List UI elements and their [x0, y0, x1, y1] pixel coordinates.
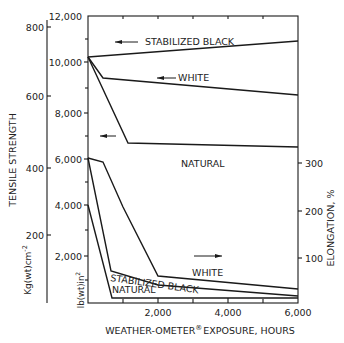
- elong-ticks: 300 200 100: [298, 158, 323, 264]
- tensile-natural-line: [88, 57, 298, 147]
- lb-unit-label: lb(wt)in2: [74, 272, 86, 308]
- elongation-axis-title: ELONGATION, %: [325, 190, 336, 267]
- x-tick-6000: 6,000: [284, 307, 311, 318]
- arrow-tensile-axis-icon: [100, 134, 116, 138]
- label-bottom-white: WHITE: [192, 267, 223, 278]
- lb-tick-12000: 12,000: [49, 11, 82, 22]
- svg-text:lb(wt)in2: lb(wt)in2: [74, 272, 86, 308]
- elong-tick-300: 300: [305, 158, 323, 169]
- lb-tick-4000: 4,000: [55, 200, 82, 211]
- x-ticks: 2,000 4,000 6,000: [123, 298, 312, 318]
- label-top-stabilized-black: STABILIZED BLACK: [145, 36, 235, 47]
- lb-tick-2000: 2,000: [55, 251, 82, 262]
- x-tick-4000: 4,000: [214, 307, 241, 318]
- label-top-white: WHITE: [178, 72, 209, 83]
- label-bottom-natural: NATURAL: [112, 284, 156, 295]
- arrow-stab-black-icon: [115, 40, 138, 44]
- kg-tick-200: 200: [26, 230, 44, 241]
- kg-tick-600: 600: [26, 91, 44, 102]
- arrow-white-icon: [157, 76, 176, 80]
- y-axis-title: TENSILE STRENGTH: [7, 113, 18, 208]
- label-top-natural: NATURAL: [181, 158, 225, 169]
- kg-unit-label: Kg(wt)cm-2: [21, 245, 33, 295]
- arrow-elongation-axis-icon: [194, 254, 222, 258]
- svg-text:Kg(wt)cm-2: Kg(wt)cm-2: [21, 245, 33, 295]
- elong-tick-100: 100: [305, 253, 323, 264]
- x-tick-2000: 2,000: [144, 307, 171, 318]
- lb-ticks: 12,000 10,000 8,000 6,000 4,000 2,000: [49, 11, 88, 280]
- chart-canvas: 800 600 400 200 TENSILE STRENGTH Kg(wt)c…: [0, 0, 344, 343]
- elong-tick-200: 200: [305, 206, 323, 217]
- kg-tick-400: 400: [26, 163, 44, 174]
- lb-tick-10000: 10,000: [49, 57, 82, 68]
- lb-tick-8000: 8,000: [55, 108, 82, 119]
- lb-tick-6000: 6,000: [55, 154, 82, 165]
- x-axis-title: WEATHER-OMETER®EXPOSURE, HOURS: [105, 324, 295, 336]
- kg-tick-800: 800: [26, 22, 44, 33]
